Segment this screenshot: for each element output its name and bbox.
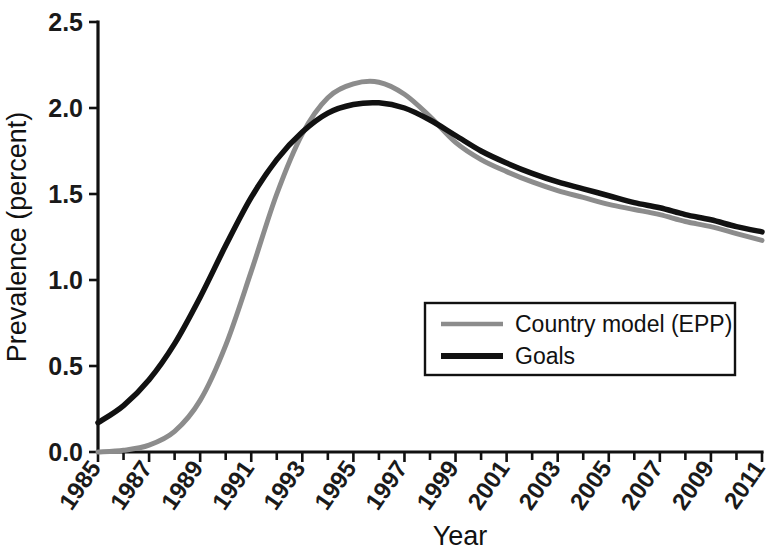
chart-figure: 0.00.51.01.52.02.51985198719891991199319… bbox=[0, 0, 773, 551]
legend-label: Country model (EPP) bbox=[515, 311, 732, 337]
x-axis-title: Year bbox=[433, 521, 488, 551]
y-tick-label: 1.0 bbox=[48, 266, 83, 294]
x-tick-label: 2005 bbox=[564, 455, 617, 514]
x-tick-label: 1987 bbox=[104, 455, 157, 514]
x-tick-label: 1997 bbox=[360, 455, 413, 514]
y-axis-title: Prevalence (percent) bbox=[2, 112, 32, 363]
x-tick-label: 2003 bbox=[513, 455, 566, 514]
y-tick-label: 1.5 bbox=[48, 180, 83, 208]
axis-spines bbox=[98, 22, 762, 452]
series-line-country-model-epp bbox=[98, 81, 762, 452]
x-tick-label: 2011 bbox=[718, 455, 770, 513]
x-tick-label: 2001 bbox=[462, 455, 515, 514]
x-tick-label: 1999 bbox=[411, 455, 464, 514]
x-tick-label: 1993 bbox=[258, 455, 311, 514]
chart-svg: 0.00.51.01.52.02.51985198719891991199319… bbox=[0, 0, 773, 551]
x-tick-label: 2007 bbox=[615, 455, 668, 514]
x-tick-label: 2009 bbox=[666, 455, 719, 514]
legend-label: Goals bbox=[515, 343, 575, 369]
x-tick-label: 1991 bbox=[207, 455, 260, 514]
y-tick-label: 0.0 bbox=[48, 438, 83, 466]
y-tick-label: 2.5 bbox=[48, 8, 83, 36]
y-tick-label: 0.5 bbox=[48, 352, 83, 380]
y-tick-label: 2.0 bbox=[48, 94, 83, 122]
x-tick-label: 1995 bbox=[309, 455, 362, 514]
x-tick-label: 1989 bbox=[156, 455, 209, 514]
